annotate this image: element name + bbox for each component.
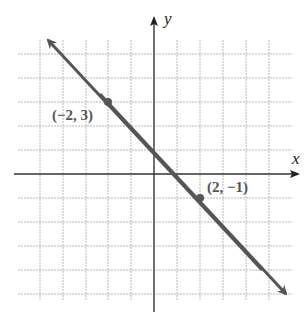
point-neg2-3 xyxy=(104,98,112,106)
grid-lines xyxy=(18,40,292,300)
point2-label: (2, −1) xyxy=(207,179,248,196)
y-axis-label: y xyxy=(162,9,172,28)
x-axis-label: x xyxy=(291,149,300,168)
graph-line-end xyxy=(100,94,286,294)
point-2-neg1 xyxy=(196,194,204,202)
coordinate-plane: x y (−2, 3) (2, −1) xyxy=(0,0,306,316)
point1-label: (−2, 3) xyxy=(52,107,93,124)
